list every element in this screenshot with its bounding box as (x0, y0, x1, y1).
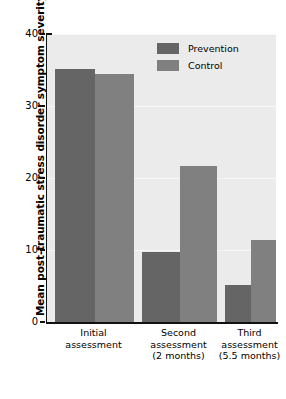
y-tick-mark (40, 33, 45, 35)
y-axis-top-cap (46, 33, 52, 35)
legend-label-control: Control (188, 60, 222, 71)
y-axis-title: Mean post-traumatic stress disorder symp… (34, 0, 46, 316)
y-tick-mark (40, 249, 45, 251)
legend-item-control: Control (157, 57, 239, 74)
bar-control-group-3 (251, 240, 277, 322)
y-tick-label: 10 (0, 244, 38, 255)
bar-prevention-group-3 (225, 285, 251, 322)
y-tick-mark (40, 177, 45, 179)
x-axis-label-line: Initial (49, 327, 139, 339)
y-tick-label: 0 (0, 316, 38, 327)
plot-area (46, 34, 276, 322)
y-tick-label: 40 (0, 28, 38, 39)
chart-legend: Prevention Control (157, 40, 239, 74)
x-axis-label-1: Initialassessment (49, 327, 139, 350)
legend-label-prevention: Prevention (188, 43, 239, 54)
y-tick-mark (40, 105, 45, 107)
y-tick-mark (40, 321, 45, 323)
bar-prevention-group-2 (142, 252, 180, 322)
x-axis-label-3: Thirdassessment(5.5 months) (205, 327, 286, 362)
chart-figure: Mean post-traumatic stress disorder symp… (0, 0, 285, 399)
x-axis-line (46, 322, 278, 324)
bar-control-group-1 (95, 74, 135, 322)
x-axis-label-line: Third (205, 327, 286, 339)
x-axis-label-line: assessment (205, 339, 286, 351)
legend-swatch-control (157, 60, 179, 71)
y-tick-label: 20 (0, 172, 38, 183)
x-axis-label-line: assessment (49, 339, 139, 351)
legend-item-prevention: Prevention (157, 40, 239, 57)
legend-swatch-prevention (157, 43, 179, 54)
y-tick-label: 30 (0, 100, 38, 111)
gridline (47, 34, 276, 35)
bar-prevention-group-1 (55, 69, 95, 322)
bar-control-group-2 (180, 166, 218, 322)
x-axis-label-line: (5.5 months) (205, 350, 286, 362)
